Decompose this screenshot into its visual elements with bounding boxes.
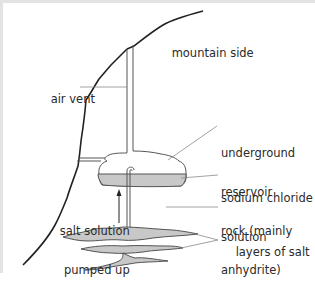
sodium-chloride-solution <box>98 174 186 187</box>
label-salt-solution-pumped-up: salt solution pumped up <box>56 199 130 281</box>
label-air-vent: air vent <box>36 80 95 119</box>
label-layers-of-salt: layers of salt <box>221 233 310 272</box>
pump-up-arrow-icon <box>117 189 122 196</box>
leader-salt-layer-2 <box>181 240 218 248</box>
label-mountain-side: mountain side <box>157 34 254 73</box>
leader-salt-layer-1 <box>195 234 218 240</box>
leader-underground-reservoir <box>168 126 217 160</box>
